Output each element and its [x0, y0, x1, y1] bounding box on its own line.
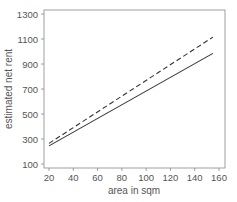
- y-tick-label: 1300: [17, 9, 38, 20]
- x-tick-label: 60: [92, 172, 103, 183]
- x-tick-label: 160: [211, 172, 227, 183]
- y-axis-label: estimated net rent: [3, 49, 14, 129]
- x-axis-ticks: 20406080100120140160: [44, 168, 227, 183]
- y-tick-label: 700: [22, 84, 38, 95]
- y-tick-label: 1100: [18, 34, 38, 45]
- line-solid: [49, 53, 213, 146]
- series-lines: [49, 37, 213, 146]
- chart: 10030050070090011001300 2040608010012014…: [0, 0, 237, 202]
- y-tick-label: 500: [22, 109, 38, 120]
- plot-frame: [44, 10, 225, 168]
- x-tick-label: 80: [117, 172, 128, 183]
- y-tick-label: 100: [22, 159, 38, 170]
- y-tick-label: 900: [22, 59, 38, 70]
- y-axis-ticks: 10030050070090011001300: [17, 9, 44, 170]
- x-tick-label: 120: [162, 172, 178, 183]
- x-tick-label: 20: [44, 172, 55, 183]
- x-tick-label: 40: [68, 172, 79, 183]
- x-tick-label: 100: [138, 172, 154, 183]
- y-tick-label: 300: [22, 134, 38, 145]
- x-tick-label: 140: [187, 172, 203, 183]
- line-dashed: [49, 37, 213, 143]
- x-axis-label: area in sqm: [108, 185, 160, 196]
